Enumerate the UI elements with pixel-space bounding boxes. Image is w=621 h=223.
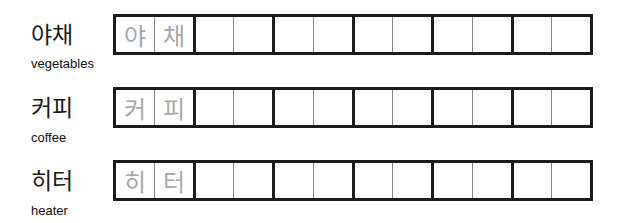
korean-word: 커피 — [31, 97, 73, 120]
writing-grid: 커 피 — [113, 87, 593, 128]
practice-cell — [473, 17, 514, 52]
trace-cell: 피 — [155, 90, 196, 125]
practice-cell — [393, 90, 434, 125]
english-translation: heater — [31, 204, 68, 217]
practice-cell — [275, 90, 314, 125]
practice-cell — [196, 17, 235, 52]
practice-cell — [393, 17, 434, 52]
english-translation: vegetables — [31, 57, 94, 70]
practice-cell — [514, 17, 553, 52]
practice-cell — [314, 90, 355, 125]
trace-cell: 채 — [155, 17, 196, 52]
practice-cell — [234, 17, 275, 52]
practice-cell — [473, 90, 514, 125]
practice-cell — [196, 90, 235, 125]
trace-cell: 히 — [116, 163, 155, 198]
practice-cell — [552, 163, 590, 198]
practice-cell — [434, 17, 473, 52]
practice-cell — [552, 90, 590, 125]
practice-cell — [355, 17, 394, 52]
practice-cell — [314, 17, 355, 52]
korean-word: 히터 — [31, 170, 73, 193]
practice-cell — [234, 163, 275, 198]
english-translation: coffee — [31, 131, 66, 144]
practice-cell — [434, 90, 473, 125]
practice-cell — [514, 163, 553, 198]
trace-cell: 터 — [155, 163, 196, 198]
trace-cell: 야 — [116, 17, 155, 52]
korean-word: 야채 — [31, 24, 73, 47]
practice-cell — [275, 163, 314, 198]
writing-grid: 야 채 — [113, 14, 593, 55]
practice-cell — [314, 163, 355, 198]
writing-grid: 히 터 — [113, 160, 593, 201]
practice-cell — [473, 163, 514, 198]
trace-cell: 커 — [116, 90, 155, 125]
practice-cell — [393, 163, 434, 198]
practice-cell — [514, 90, 553, 125]
practice-cell — [234, 90, 275, 125]
practice-cell — [355, 163, 394, 198]
practice-cell — [196, 163, 235, 198]
practice-cell — [355, 90, 394, 125]
practice-cell — [552, 17, 590, 52]
practice-cell — [434, 163, 473, 198]
practice-cell — [275, 17, 314, 52]
